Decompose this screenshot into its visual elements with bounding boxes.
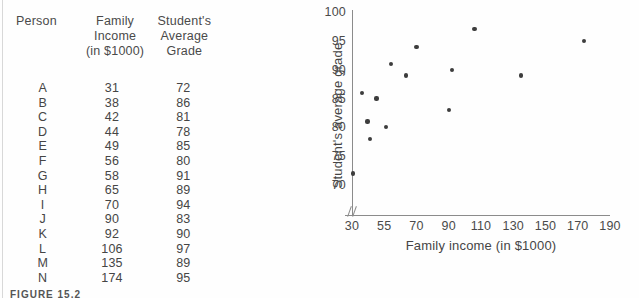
cell-average-grade: 72 <box>149 81 218 96</box>
scatter-plot: Family income (in $1000) Student's avera… <box>300 0 630 260</box>
cell-person: H <box>8 183 75 198</box>
table-header-row: Person Family Income (in $1000) Student'… <box>8 14 218 59</box>
cell-average-grade: 90 <box>149 227 218 242</box>
table-row: B3886 <box>8 96 218 111</box>
y-axis-tick-label: 85 <box>318 93 346 106</box>
cell-average-grade: 97 <box>149 242 218 257</box>
cell-family-income: 65 <box>75 183 148 198</box>
x-axis-tick-label: 170 <box>561 220 595 233</box>
data-point <box>360 91 364 95</box>
y-axis-tick-label: 75 <box>318 150 346 163</box>
cell-person: J <box>8 212 75 227</box>
table-row: D4478 <box>8 125 218 140</box>
data-point <box>450 68 454 72</box>
data-point <box>368 137 372 141</box>
cell-family-income: 42 <box>75 110 148 125</box>
x-axis-tick-label: 130 <box>496 220 530 233</box>
y-axis-tick-label: 80 <box>318 121 346 134</box>
table-row: I7094 <box>8 198 218 213</box>
cell-average-grade: 78 <box>149 125 218 140</box>
y-axis-tick-label: 90 <box>318 64 346 77</box>
cell-person: B <box>8 96 75 111</box>
x-axis-tick-label: 190 <box>593 220 627 233</box>
x-axis-tick-label: 55 <box>367 220 401 233</box>
cell-family-income: 174 <box>75 271 148 286</box>
cell-person: A <box>8 81 75 96</box>
cell-person: F <box>8 154 75 169</box>
cell-average-grade: 95 <box>149 271 218 286</box>
x-axis-tick-label: 110 <box>464 220 498 233</box>
table-row: M13589 <box>8 256 218 271</box>
data-point <box>389 62 393 66</box>
cell-person: G <box>8 169 75 184</box>
cell-family-income: 56 <box>75 154 148 169</box>
x-axis-tick-label: 30 <box>335 220 369 233</box>
cell-family-income: 44 <box>75 125 148 140</box>
table-row: K9290 <box>8 227 218 242</box>
x-axis-tick-label: 150 <box>529 220 563 233</box>
cell-average-grade: 81 <box>149 110 218 125</box>
x-axis-title: Family income (in $1000) <box>352 238 610 253</box>
student-income-table: Person Family Income (in $1000) Student'… <box>8 14 218 285</box>
cell-average-grade: 94 <box>149 198 218 213</box>
cell-family-income: 31 <box>75 81 148 96</box>
cell-family-income: 70 <box>75 198 148 213</box>
table-row: N17495 <box>8 271 218 286</box>
table-row: J9083 <box>8 212 218 227</box>
table-row: F5680 <box>8 154 218 169</box>
cell-average-grade: 91 <box>149 169 218 184</box>
data-point <box>351 171 355 175</box>
y-axis-line <box>352 10 353 216</box>
data-point <box>582 39 586 43</box>
cell-person: E <box>8 139 75 154</box>
column-header-family-income: Family Income (in $1000) <box>79 14 150 59</box>
table-body: A3172B3886C4281D4478E4985F5680G5891H6589… <box>8 81 218 285</box>
cell-family-income: 49 <box>75 139 148 154</box>
y-axis-tick-label: 100 <box>318 6 346 19</box>
table-row: A3172 <box>8 81 218 96</box>
cell-person: M <box>8 256 75 271</box>
cell-average-grade: 89 <box>149 256 218 271</box>
column-header-student-average-grade: Student's Average Grade <box>151 14 218 59</box>
table-row: E4985 <box>8 139 218 154</box>
data-point <box>374 96 378 100</box>
cell-person: L <box>8 242 75 257</box>
cell-family-income: 92 <box>75 227 148 242</box>
scan-edge-artifact <box>2 0 3 298</box>
table-row: G5891 <box>8 169 218 184</box>
x-axis-line <box>345 215 610 216</box>
cell-person: D <box>8 125 75 140</box>
cell-person: K <box>8 227 75 242</box>
cell-person: C <box>8 110 75 125</box>
data-point <box>519 73 523 77</box>
x-axis-tick-label: 90 <box>432 220 466 233</box>
column-header-person: Person <box>8 14 79 29</box>
cell-average-grade: 83 <box>149 212 218 227</box>
cell-family-income: 38 <box>75 96 148 111</box>
cell-person: I <box>8 198 75 213</box>
data-point <box>414 45 418 49</box>
cell-average-grade: 89 <box>149 183 218 198</box>
cell-average-grade: 80 <box>149 154 218 169</box>
y-axis-tick-label: 95 <box>318 35 346 48</box>
table-row: H6589 <box>8 183 218 198</box>
figure-caption: FIGURE 15.2 <box>10 289 81 298</box>
cell-average-grade: 86 <box>149 96 218 111</box>
data-point <box>447 108 451 112</box>
cell-average-grade: 85 <box>149 139 218 154</box>
y-axis-tick-label: 70 <box>318 179 346 192</box>
data-point <box>404 73 408 77</box>
x-axis-break-icon <box>346 206 360 218</box>
x-axis-tick-label: 70 <box>400 220 434 233</box>
cell-family-income: 90 <box>75 212 148 227</box>
cell-family-income: 58 <box>75 169 148 184</box>
plot-area: Family income (in $1000) Student's avera… <box>300 0 630 260</box>
data-point <box>365 119 369 123</box>
data-point <box>472 27 476 31</box>
cell-person: N <box>8 271 75 286</box>
table-row: C4281 <box>8 110 218 125</box>
data-point <box>384 125 388 129</box>
table-row: L10697 <box>8 242 218 257</box>
cell-family-income: 106 <box>75 242 148 257</box>
cell-family-income: 135 <box>75 256 148 271</box>
